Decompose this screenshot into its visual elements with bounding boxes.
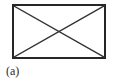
figure-container: (a) xyxy=(0,0,113,83)
figure-caption-label: (a) xyxy=(6,64,19,78)
